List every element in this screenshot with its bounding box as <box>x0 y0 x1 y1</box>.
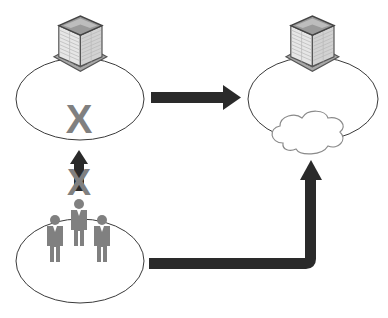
arrow-users-to-cloud <box>149 160 322 264</box>
node-users <box>16 199 144 303</box>
diagram-canvas: X X <box>0 0 388 318</box>
node-on-prem: X <box>16 16 144 141</box>
arrow-users-to-on-prem-blocked: X <box>67 150 91 203</box>
blocked-x-marker: X <box>66 97 93 141</box>
node-cloud-site <box>248 16 378 154</box>
blocked-x-marker: X <box>67 162 91 203</box>
arrow-on-prem-to-cloud <box>151 85 241 110</box>
